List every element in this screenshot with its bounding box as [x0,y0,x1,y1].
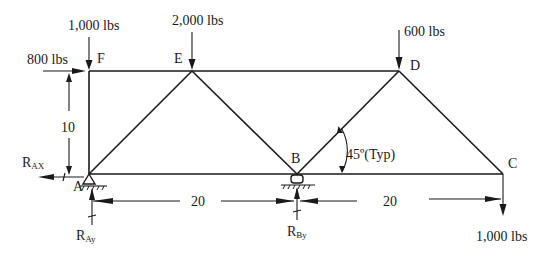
load-d-vertical: 600 lbs [396,24,445,70]
truss-svg: F E D A B C 1,000 lbs 800 lbs 2,000 lbs … [0,0,552,258]
node-label-d: D [410,58,420,73]
arrow-right-icon [485,196,501,202]
arrow-left-icon [38,174,54,180]
support-b-roller [281,175,315,189]
arrow-right-icon [276,198,294,204]
support-a-pin [80,174,107,190]
member-EB [192,71,297,174]
arrow-right-icon [72,68,86,74]
load-e-vertical-label: 2,000 lbs [172,13,223,28]
load-c-vertical: 1,000 lbs [476,174,527,244]
reaction-ray-label: RAy [76,228,96,244]
load-f-vertical-label: 1,000 lbs [68,18,119,33]
arrow-up-icon [89,188,95,200]
reaction-rax-label: RAX [22,155,45,171]
ground-hatch-a [82,186,104,190]
load-f-horizontal: 800 lbs [27,52,86,74]
dimension-span-bc-label: 20 [383,194,397,209]
angle-label: 45º(Typ) [346,147,396,163]
load-d-vertical-label: 600 lbs [404,24,445,39]
truss-diagram: F E D A B C 1,000 lbs 800 lbs 2,000 lbs … [0,0,552,258]
arrow-down-icon [189,59,196,70]
roller-support-icon [291,175,303,183]
reaction-rby-label: RBy [287,224,307,240]
load-c-vertical-label: 1,000 lbs [476,229,527,244]
node-label-f: F [97,51,105,66]
arrow-left-icon [93,198,113,204]
dimension-height-label: 10 [61,120,75,135]
arrow-down-icon [396,57,403,70]
angle-annotation: 45º(Typ) [337,126,396,173]
arrow-up-icon [294,187,300,199]
dimension-span-bc: 20 [300,194,501,209]
reaction-rby: RBy [287,187,307,240]
load-f-vertical: 1,000 lbs [68,18,119,70]
load-f-horizontal-label: 800 lbs [27,52,68,67]
dimension-span-ab-label: 20 [191,194,205,209]
arrow-left-icon [300,198,318,204]
ground-hatch-b [283,185,310,189]
arrow-up-icon [66,73,72,82]
node-label-e: E [174,51,183,66]
node-label-b: B [291,151,300,166]
member-DC [399,71,503,174]
reaction-ray: RAy [76,188,96,244]
member-AE [89,71,192,174]
arrow-down-icon [86,60,93,70]
arrow-down-icon [500,204,507,216]
dimension-span-ab: 20 [93,194,294,209]
arrow-down-icon [339,166,345,173]
reaction-rax: RAX [22,155,84,181]
arrow-down-icon [66,166,72,175]
dimension-height: 10 [61,73,75,175]
node-label-c: C [508,156,517,171]
pin-support-icon [83,174,95,184]
